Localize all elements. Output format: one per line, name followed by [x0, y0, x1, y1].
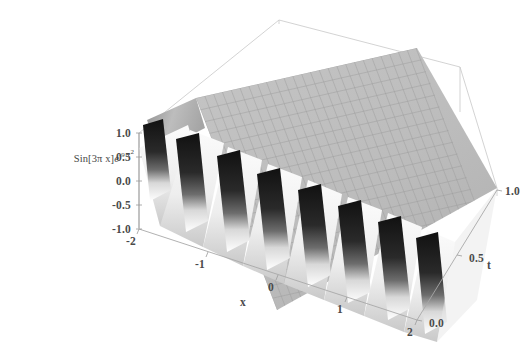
x-tick-label-0: -2 [126, 235, 136, 247]
t-axis-title: t [487, 259, 491, 271]
z-tick-label-2: 0.0 [116, 175, 131, 187]
x-tick-label-4: 2 [407, 326, 413, 338]
t-tick-label-1: 0.5 [469, 252, 484, 264]
plot-3d-surface: 1.0 0.5 0.0 -0.5 -1.0 -2 -1 0 1 2 x 0.0 [0, 0, 527, 358]
x-tick-label-3: 1 [337, 303, 343, 315]
z-tick-label-0: 1.0 [116, 127, 131, 139]
z-axis-ticks: 1.0 0.5 0.0 -0.5 -1.0 [112, 127, 142, 235]
t-tick-label-2: 1.0 [505, 185, 520, 197]
z-axis-title: Sin[3π x]e-9 x2 [22, 152, 134, 164]
x-tick-label-1: -1 [195, 258, 205, 270]
x-tick-label-2: 0 [268, 281, 274, 293]
z-tick-label-3: -0.5 [112, 199, 131, 211]
z-tick-label-4: -1.0 [112, 223, 131, 235]
x-axis-title: x [240, 296, 246, 308]
t-tick-label-0: 0.0 [429, 317, 444, 329]
z-axis-title-exponent: -9 x2 [119, 151, 134, 159]
surface-plot-canvas: 1.0 0.5 0.0 -0.5 -1.0 -2 -1 0 1 2 x 0.0 [0, 0, 527, 358]
z-axis-title-prefix: Sin[3π x] [74, 153, 114, 164]
